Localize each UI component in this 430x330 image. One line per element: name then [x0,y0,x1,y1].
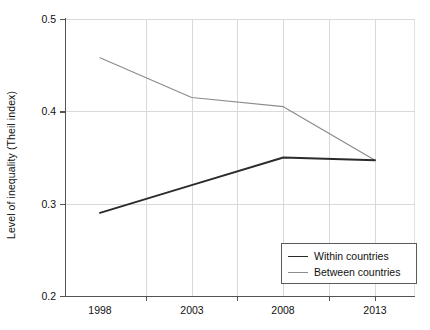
legend-label: Within countries [314,250,389,262]
legend-item: Between countries [288,264,410,280]
legend-swatch-between-countries [288,272,308,273]
legend-swatch-within-countries [288,256,308,257]
line-chart: Level of inequality (Theil index) 0.50.4… [0,0,430,330]
legend-label: Between countries [314,266,400,278]
legend-item: Within countries [288,248,410,264]
series-line-between-countries [100,58,375,160]
legend: Within countries Between countries [281,243,417,284]
series-line-within-countries [100,158,375,213]
